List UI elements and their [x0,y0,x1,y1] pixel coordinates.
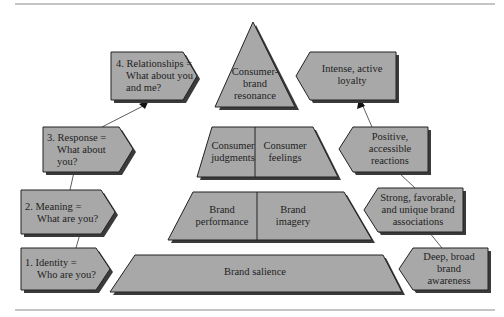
consumer-judgments-label: Consumer judgments [208,140,258,164]
objective-4-line1: Intense, active [308,63,396,75]
objective-1-line3: awareness [410,275,488,287]
apex-label-line1: Consumer- [218,66,292,78]
objective-3-line1: Positive, [352,131,428,143]
performance-line1: Brand [190,204,254,216]
brand-performance-label: Brand performance [190,204,254,228]
brand-imagery-label: Brand imagery [268,204,318,228]
stage-1-label: 1. Identity = Who are you? [25,257,96,281]
feelings-line2: feelings [260,152,310,164]
stage-2-line2: What are you? [25,213,98,225]
stage-4-line2: What about you [116,70,193,82]
objective-4-label: Intense, active loyalty [308,63,396,87]
objective-4-line2: loyalty [308,75,396,87]
salience-line1: Brand salience [200,266,310,278]
stage-3-label: 3. Response = What about you? [47,132,106,168]
stage-3-line2: What about [47,144,106,156]
objective-1-line2: brand [410,263,488,275]
stage-4-line1: 4. Relationships = [116,58,193,70]
apex-label: Consumer- brand resonance [218,66,292,102]
stage-1-line1: 1. Identity = [25,257,96,269]
consumer-feelings-label: Consumer feelings [260,140,310,164]
imagery-line1: Brand [268,204,318,216]
stage-2-line1: 2. Meaning = [25,201,98,213]
objective-1-line1: Deep, broad [410,251,488,263]
apex-label-line2: brand [218,78,292,90]
objective-1-label: Deep, broad brand awareness [410,251,488,287]
imagery-line2: imagery [268,216,318,228]
judgments-line1: Consumer [208,140,258,152]
objective-2-label: Strong, favorable, and unique brand asso… [372,192,464,228]
stage-2-label: 2. Meaning = What are you? [25,201,98,225]
performance-line2: performance [190,216,254,228]
stage-1-line2: Who are you? [25,269,96,281]
objective-3-label: Positive, accessible reactions [352,131,428,167]
objective-3-line2: accessible [352,143,428,155]
objective-2-line1: Strong, favorable, [372,192,464,204]
objective-2-line3: associations [372,216,464,228]
stage-4-label: 4. Relationships = What about you and me… [116,58,193,94]
stage-3-line3: you? [47,156,106,168]
objective-2-line2: and unique brand [372,204,464,216]
feelings-line1: Consumer [260,140,310,152]
judgments-line2: judgments [208,152,258,164]
apex-label-line3: resonance [218,90,292,102]
stage-3-line1: 3. Response = [47,132,106,144]
brand-salience-label: Brand salience [200,266,310,278]
stage-4-line3: and me? [116,82,193,94]
objective-3-line3: reactions [352,155,428,167]
